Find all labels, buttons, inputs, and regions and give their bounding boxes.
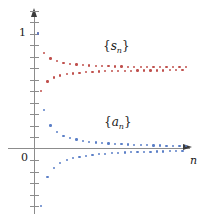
data-point-sn	[85, 71, 87, 73]
data-point-sn	[149, 69, 151, 71]
y-axis-tick	[30, 22, 39, 23]
data-point-sn	[172, 66, 174, 68]
data-point-an	[149, 151, 151, 153]
data-point-an	[59, 162, 61, 164]
data-point-sn	[69, 63, 71, 65]
brace-open-sn: {	[103, 39, 111, 53]
data-point-an	[172, 145, 174, 147]
sequence-convergence-plot: 1 0 n {sn} {an}	[0, 0, 206, 220]
y-axis-tick	[30, 195, 39, 196]
data-point-sn	[120, 65, 122, 67]
data-point-sn	[181, 69, 183, 71]
symbol-a: a	[112, 115, 119, 129]
y-axis-tick	[30, 80, 39, 81]
data-point-an	[124, 151, 126, 153]
data-point-sn	[146, 66, 148, 68]
data-point-sn	[78, 72, 80, 74]
data-point-an	[95, 141, 97, 143]
data-point-sn	[133, 66, 135, 68]
data-point-an	[53, 167, 55, 169]
data-point-sn	[107, 65, 109, 67]
data-point-sn	[72, 72, 74, 74]
data-point-an	[101, 142, 103, 144]
y-axis-arrow-icon	[31, 8, 37, 17]
data-point-sn	[104, 70, 106, 72]
y-axis-tick	[30, 11, 39, 12]
y-axis-tick	[30, 114, 39, 115]
data-point-sn	[117, 70, 119, 72]
y-axis-tick	[30, 126, 39, 127]
data-point-an	[107, 142, 109, 144]
y-axis-tick	[30, 103, 39, 104]
data-point-sn	[159, 66, 161, 68]
data-point-an	[72, 157, 74, 159]
data-point-an	[43, 109, 45, 111]
data-point-an	[104, 153, 106, 155]
data-point-an	[181, 150, 183, 152]
data-point-sn	[178, 66, 180, 68]
data-point-an	[152, 144, 154, 146]
data-point-an	[49, 124, 51, 126]
data-point-an	[69, 137, 71, 139]
data-point-an	[46, 176, 48, 178]
data-point-an	[130, 151, 132, 153]
data-point-sn	[127, 66, 129, 68]
y-axis-tick	[30, 160, 39, 161]
data-point-sn	[111, 70, 113, 72]
data-point-an	[37, 32, 39, 34]
x-axis-line	[8, 148, 190, 149]
y-tick-label-one: 1	[19, 27, 26, 38]
data-point-sn	[130, 70, 132, 72]
y-axis-tick	[30, 137, 39, 138]
data-point-an	[120, 143, 122, 145]
data-point-an	[143, 151, 145, 153]
data-point-an	[117, 152, 119, 154]
data-point-an	[82, 140, 84, 142]
data-point-sn	[140, 66, 142, 68]
y-axis-tick	[30, 91, 39, 92]
data-point-sn	[98, 70, 100, 72]
data-point-an	[75, 138, 77, 140]
data-point-sn	[175, 69, 177, 71]
data-point-an	[133, 144, 135, 146]
y-axis-tick	[30, 57, 39, 58]
data-point-an	[40, 205, 42, 207]
y-axis-tick	[30, 45, 39, 46]
data-point-an	[165, 145, 167, 147]
origin-label: 0	[21, 152, 28, 163]
y-axis-tick	[30, 206, 39, 207]
data-point-an	[88, 141, 90, 143]
data-point-an	[91, 154, 93, 156]
data-point-sn	[49, 57, 51, 59]
data-point-an	[175, 150, 177, 152]
brace-close-sn: }	[122, 39, 130, 53]
data-point-sn	[95, 65, 97, 67]
data-point-sn	[75, 63, 77, 65]
data-point-sn	[152, 66, 154, 68]
data-point-an	[140, 144, 142, 146]
data-point-sn	[101, 65, 103, 67]
data-point-an	[114, 143, 116, 145]
data-point-an	[85, 155, 87, 157]
brace-close-an: }	[124, 115, 132, 129]
data-point-an	[136, 151, 138, 153]
series-label-an: {an}	[104, 116, 132, 133]
data-point-sn	[46, 80, 48, 82]
data-point-sn	[59, 74, 61, 76]
data-point-an	[78, 156, 80, 158]
series-label-sn: {sn}	[103, 40, 130, 57]
data-point-an	[66, 159, 68, 161]
data-point-sn	[143, 69, 145, 71]
data-point-an	[178, 145, 180, 147]
data-point-an	[98, 153, 100, 155]
data-point-an	[169, 150, 171, 152]
data-point-sn	[114, 65, 116, 67]
data-point-an	[162, 150, 164, 152]
data-point-an	[127, 143, 129, 145]
data-point-sn	[162, 69, 164, 71]
x-axis-name-label: n	[190, 155, 197, 166]
data-point-sn	[136, 69, 138, 71]
data-point-sn	[56, 60, 58, 62]
data-point-sn	[40, 90, 42, 92]
data-point-sn	[43, 52, 45, 54]
